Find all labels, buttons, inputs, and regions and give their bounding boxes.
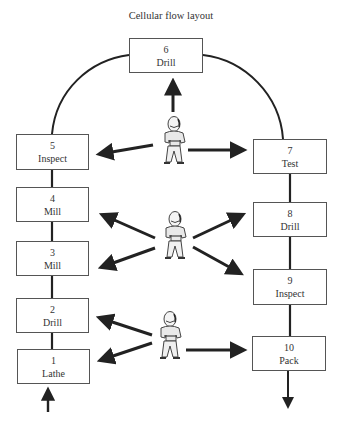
station-label: Drill — [281, 220, 300, 233]
station-label: Mill — [44, 259, 61, 272]
station-6-drill: 6 Drill — [129, 38, 203, 73]
station-number: 1 — [51, 354, 56, 367]
station-number: 2 — [50, 303, 55, 316]
station-number: 4 — [50, 192, 55, 205]
station-number: 10 — [284, 341, 294, 354]
worker-3-icon — [153, 310, 187, 362]
station-number: 3 — [50, 246, 55, 259]
station-label: Inspect — [38, 152, 67, 165]
station-8-drill: 8 Drill — [253, 202, 327, 237]
arc-6-to-7 — [203, 55, 283, 139]
station-number: 8 — [288, 207, 293, 220]
station-9-inspect: 9 Inspect — [253, 269, 327, 305]
worker-2-icon — [158, 210, 192, 262]
station-4-mill: 4 Mill — [16, 187, 89, 222]
station-7-test: 7 Test — [253, 139, 327, 174]
station-label: Mill — [44, 205, 61, 218]
station-label: Inspect — [276, 287, 305, 300]
station-label: Lathe — [42, 367, 65, 380]
station-3-mill: 3 Mill — [16, 241, 89, 276]
station-number: 5 — [50, 139, 55, 152]
station-number: 6 — [164, 43, 169, 56]
station-number: 9 — [288, 274, 293, 287]
station-label: Pack — [279, 354, 298, 367]
station-number: 7 — [288, 144, 293, 157]
worker-1-icon — [157, 115, 191, 167]
station-5-inspect: 5 Inspect — [16, 134, 89, 170]
station-label: Test — [282, 157, 299, 170]
station-2-drill: 2 Drill — [16, 298, 89, 333]
station-10-pack: 10 Pack — [252, 336, 326, 371]
arc-5-to-6 — [52, 55, 129, 134]
station-label: Drill — [43, 316, 62, 329]
station-1-lathe: 1 Lathe — [17, 349, 90, 384]
station-label: Drill — [157, 56, 176, 69]
